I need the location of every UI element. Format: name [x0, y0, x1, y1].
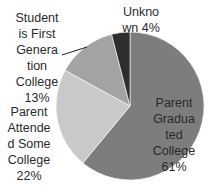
label-parent-graduated: Parent Gradua ted College 61%	[146, 95, 202, 175]
label-line: Attende	[2, 120, 56, 136]
label-line: ted	[146, 127, 202, 143]
label-line: College	[2, 152, 56, 168]
label-line: Parent	[146, 95, 202, 111]
label-unknown: Unkno wn 4%	[116, 4, 166, 36]
label-line: College	[10, 74, 64, 90]
label-line: d Some	[2, 136, 56, 152]
label-line: 61%	[146, 159, 202, 175]
label-line: Gradua	[146, 111, 202, 127]
label-line: Parent	[2, 104, 56, 120]
label-line: College	[146, 143, 202, 159]
label-parent-attended-some: Parent Attende d Some College 22%	[2, 104, 56, 184]
label-line: 22%	[2, 168, 56, 184]
label-line: wn 4%	[116, 20, 166, 36]
label-line: Student	[10, 10, 64, 26]
label-line: is First	[10, 26, 64, 42]
label-line: 13%	[10, 90, 64, 106]
label-line: Genera	[10, 42, 64, 58]
label-line: tion	[10, 58, 64, 74]
label-line: Unkno	[116, 4, 166, 20]
label-first-generation: Student is First Genera tion College 13%	[10, 10, 64, 106]
